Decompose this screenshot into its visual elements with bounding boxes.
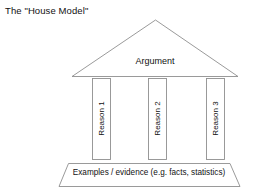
roof-triangle — [72, 20, 238, 77]
pillar-label-reason-3: Reason 3 — [211, 88, 220, 150]
foundation-label-examples: Examples / evidence (e.g. facts, statist… — [64, 168, 234, 178]
roof-label-argument: Argument — [72, 56, 238, 67]
pillar-label-reason-2: Reason 2 — [153, 88, 162, 150]
house-shapes-svg — [0, 0, 259, 193]
pillar-label-reason-1: Reason 1 — [97, 88, 106, 150]
house-model-diagram: The "House Model" Argument Reason 1 Reas… — [0, 0, 259, 193]
